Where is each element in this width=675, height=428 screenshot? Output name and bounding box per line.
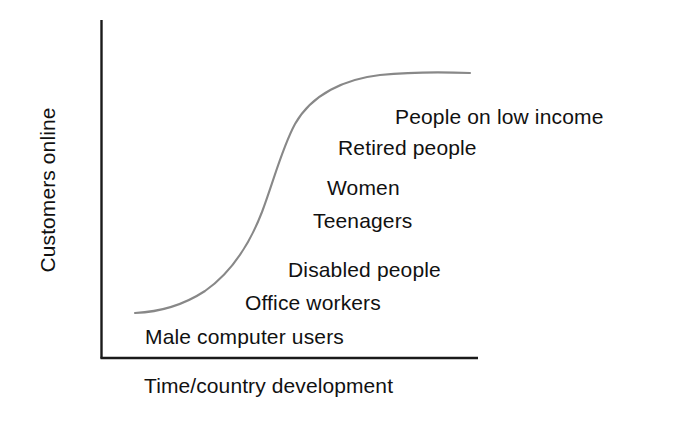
annotation-teenagers: Teenagers	[313, 209, 412, 233]
annotation-office-workers: Office workers	[245, 291, 381, 315]
y-axis-label: Customers online	[34, 60, 62, 320]
annotation-male-computer-users: Male computer users	[145, 325, 344, 349]
chart-figure: Customers online Time/country developmen…	[0, 0, 675, 428]
annotation-people-on-low-income: People on low income	[395, 105, 603, 129]
annotation-retired-people: Retired people	[338, 136, 477, 160]
annotation-women: Women	[327, 176, 400, 200]
x-axis-label: Time/country development	[144, 374, 393, 398]
annotation-disabled-people: Disabled people	[288, 258, 441, 282]
